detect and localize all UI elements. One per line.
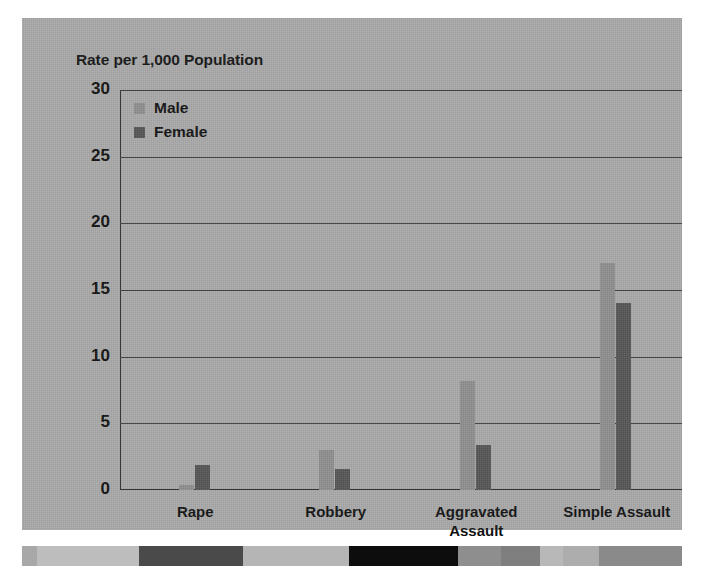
bar-female-0 [195, 465, 210, 490]
strip-block [22, 546, 37, 566]
gridline [120, 157, 682, 158]
legend-item-female: Female [134, 120, 207, 144]
strip-block [243, 546, 349, 566]
x-tick-label: Simple Assault [537, 502, 697, 521]
strip-block [37, 546, 139, 566]
strip-block [349, 546, 458, 566]
chart-figure: Rate per 1,000 Population 051015202530 R… [0, 0, 710, 585]
legend-label-female: Female [154, 123, 207, 141]
y-tick-label: 5 [68, 412, 110, 432]
bar-male-2 [460, 381, 475, 490]
bar-male-0 [179, 485, 194, 490]
gridline [120, 223, 682, 224]
bar-female-2 [476, 445, 491, 490]
x-tick-label: Aggravated Assault [396, 502, 556, 540]
bar-female-3 [616, 303, 631, 490]
x-tick-label: Robbery [256, 502, 416, 521]
decorative-bottom-strip [22, 546, 682, 566]
bar-female-1 [335, 469, 350, 490]
legend-item-male: Male [134, 96, 207, 120]
x-tick-label: Rape [115, 502, 275, 521]
y-tick-label: 10 [68, 346, 110, 366]
bar-male-1 [319, 450, 334, 490]
y-tick-label: 0 [68, 479, 110, 499]
strip-block [501, 546, 541, 566]
y-axis-title: Rate per 1,000 Population [76, 51, 263, 69]
legend: Male Female [134, 96, 207, 144]
strip-block [540, 546, 563, 566]
y-tick-label: 30 [68, 79, 110, 99]
strip-block [563, 546, 599, 566]
plot-area [120, 90, 682, 490]
bar-male-3 [600, 263, 615, 490]
chart-panel: Rate per 1,000 Population 051015202530 R… [22, 18, 682, 530]
strip-block [139, 546, 243, 566]
y-tick-label: 25 [68, 146, 110, 166]
gridline [120, 90, 682, 91]
y-tick-label: 15 [68, 279, 110, 299]
gridline [120, 290, 682, 291]
strip-block [599, 546, 682, 566]
gridline [120, 423, 682, 424]
legend-swatch-male [134, 103, 145, 114]
y-tick-label: 20 [68, 212, 110, 232]
legend-label-male: Male [154, 99, 188, 117]
gridline [120, 357, 682, 358]
legend-swatch-female [134, 127, 145, 138]
strip-block [458, 546, 501, 566]
